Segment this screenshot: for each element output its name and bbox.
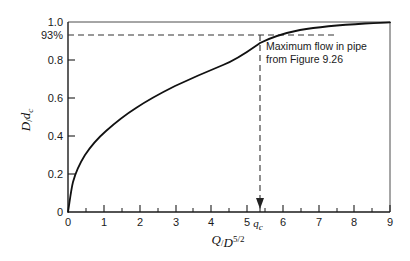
figure-container: 1.0 0.8 0.6 0.4 0.2 0 93%	[0, 0, 410, 261]
x-tick-label-1: 1	[101, 216, 107, 228]
x-axis-minor-ticks	[86, 207, 372, 212]
y-tick-label-0.2: 0.2	[48, 168, 63, 180]
y-axis-title-subscript: c	[25, 109, 35, 113]
y-axis-tick-labels: 1.0 0.8 0.6 0.4 0.2 0 93%	[41, 16, 63, 218]
x-axis-title-denominator: D	[223, 235, 234, 250]
chart-canvas: 1.0 0.8 0.6 0.4 0.2 0 93%	[0, 0, 410, 261]
y-tick-label-93pct: 93%	[41, 29, 63, 41]
y-tick-label-1.0: 1.0	[48, 16, 63, 28]
x-axis-ticks	[104, 205, 390, 212]
annotation-max-flow: Maximum flow in pipe from Figure 9.26	[266, 40, 367, 65]
svg-text:Q/D5/2: Q/D5/2	[212, 232, 245, 250]
qc-arrow-head-icon	[256, 198, 264, 209]
x-axis-title: Q/D5/2	[212, 232, 245, 250]
x-axis-tick-labels: 0 1 2 3 4 5 6 7 8 9	[65, 216, 393, 228]
svg-text:D/dc: D/dc	[18, 109, 35, 132]
y-axis-title: D/dc	[18, 109, 35, 132]
x-tick-label-9: 9	[387, 216, 393, 228]
y-axis-title-numerator: D	[18, 121, 33, 132]
x-tick-label-4: 4	[208, 216, 214, 228]
y-tick-label-0: 0	[57, 206, 63, 218]
y-tick-label-0.6: 0.6	[48, 92, 63, 104]
y-axis-ticks	[68, 60, 75, 174]
x-tick-label-6: 6	[280, 216, 286, 228]
qc-axis-label: qc	[253, 217, 263, 232]
x-tick-label-3: 3	[173, 216, 179, 228]
y-tick-label-0.8: 0.8	[48, 54, 63, 66]
qc-subscript: c	[259, 222, 263, 232]
x-tick-label-2: 2	[137, 216, 143, 228]
x-axis-title-exponent: 5/2	[233, 234, 245, 244]
annotation-line-1: Maximum flow in pipe	[266, 40, 367, 52]
x-tick-label-5: 5	[244, 216, 250, 228]
x-tick-label-0: 0	[65, 216, 71, 228]
qc-label-text: qc	[253, 217, 263, 232]
annotation-line-2: from Figure 9.26	[266, 53, 343, 65]
x-tick-label-8: 8	[351, 216, 357, 228]
x-tick-label-7: 7	[316, 216, 322, 228]
y-tick-label-0.4: 0.4	[48, 130, 63, 142]
